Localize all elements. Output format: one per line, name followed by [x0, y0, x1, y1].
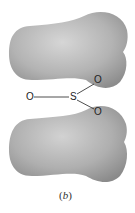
oxygen-atom-lower-right: O	[94, 107, 102, 117]
molecule-diagram: O S O O (b)	[0, 0, 135, 213]
lower-lobe	[9, 106, 127, 182]
oxygen-atom-upper-right: O	[94, 75, 102, 85]
caption-letter: b	[63, 189, 69, 201]
upper-lobe	[9, 12, 128, 88]
bond-upper-right	[77, 84, 94, 94]
oxygen-atom-left: O	[26, 92, 34, 102]
sulfur-atom: S	[70, 92, 77, 102]
lobes-graphic	[0, 0, 135, 213]
bond-lower-right	[77, 100, 94, 109]
figure-caption: (b)	[59, 189, 72, 201]
